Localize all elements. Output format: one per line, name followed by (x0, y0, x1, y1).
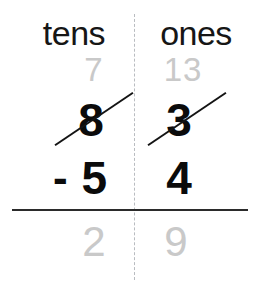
regroup-digit-ones: 13 (140, 52, 226, 86)
subtrahend-digit-tens: 5 (82, 155, 108, 201)
place-value-divider (134, 14, 135, 280)
answer-digit-tens: 2 (82, 221, 105, 263)
column-header-tens: tens (18, 14, 130, 52)
answer-digit-ones: 9 (164, 221, 187, 263)
regroup-digit-tens: 7 (58, 52, 130, 86)
answer-rule-line (12, 209, 248, 211)
subtrahend-row-tens: - 5 (30, 152, 130, 204)
minuend-digit-ones: 3 (140, 94, 218, 146)
minus-operator: - (53, 156, 68, 200)
column-header-ones: ones (140, 14, 252, 52)
subtrahend-digit-ones: 4 (140, 152, 218, 204)
answer-digit-ones-wrap: 9 (140, 220, 212, 264)
answer-digit-tens-wrap: 2 (58, 220, 130, 264)
subtraction-worksheet: tens ones 7 13 8 3 - 5 4 2 9 (0, 0, 253, 285)
